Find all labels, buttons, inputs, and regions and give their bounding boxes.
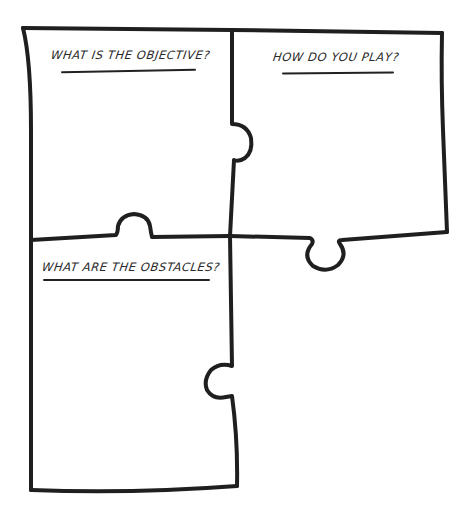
left-edge (23, 28, 31, 490)
prompt-how-to-play: HOW DO YOU PLAY? (272, 50, 400, 64)
puzzle-diagram (0, 0, 471, 518)
bottom-edge (31, 486, 237, 491)
prompt-objective: WHAT IS THE OBJECTIVE? (50, 48, 211, 62)
divider-middle (31, 214, 230, 240)
divider-top (230, 30, 251, 236)
bottom-edge-top-right (230, 232, 447, 270)
prompt-obstacles: WHAT ARE THE OBSTACLES? (41, 260, 221, 274)
right-edge-top-right (442, 33, 447, 232)
underline-obstacles (43, 279, 210, 281)
